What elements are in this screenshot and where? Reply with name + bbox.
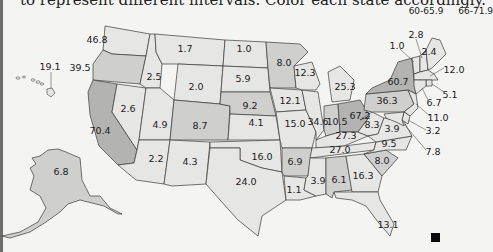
label-ma: 12.0 [443, 64, 464, 75]
label-wv: 8.3 [364, 119, 379, 130]
label-nv: 2.6 [120, 103, 135, 114]
label-al: 6.1 [331, 174, 346, 185]
label-ny: 60.7 [387, 76, 408, 87]
label-wa: 46.8 [86, 34, 107, 45]
leader-de [408, 120, 426, 130]
label-ut: 4.9 [152, 119, 167, 130]
leader-ma [430, 68, 444, 76]
label-pa: 36.3 [376, 95, 397, 106]
label-mo: 15.0 [284, 118, 305, 129]
label-hi: 19.1 [39, 61, 60, 72]
label-md: 7.8 [425, 146, 440, 157]
label-va: 3.9 [384, 123, 399, 134]
label-ct: 6.7 [426, 97, 441, 108]
label-ar: 6.9 [287, 156, 302, 167]
label-sc: 8.0 [374, 155, 389, 166]
label-sd: 5.9 [235, 73, 250, 84]
label-ri: 5.1 [442, 89, 457, 100]
label-ok: 16.0 [251, 151, 272, 162]
label-nd: 1.0 [236, 43, 251, 54]
label-me: 2.4 [421, 46, 436, 57]
label-ky: 27.3 [335, 130, 356, 141]
label-mt: 1.7 [177, 43, 192, 54]
label-ak: 6.8 [53, 166, 68, 177]
state-ri[interactable] [426, 80, 432, 86]
label-ca: 70.4 [89, 125, 110, 136]
label-co: 8.7 [192, 120, 207, 131]
label-ks: 4.1 [248, 117, 263, 128]
label-il: 34.6 [307, 116, 328, 127]
label-or: 39.5 [69, 62, 90, 73]
label-tx: 24.0 [235, 176, 256, 187]
label-az: 2.2 [148, 153, 163, 164]
label-la: 1.1 [286, 184, 301, 195]
label-vt: 1.0 [389, 40, 404, 51]
label-ga: 16.3 [352, 170, 373, 181]
label-ms: 3.9 [310, 175, 325, 186]
label-in: 10.5 [326, 116, 347, 127]
label-wy: 2.0 [188, 81, 203, 92]
label-wi: 12.3 [294, 67, 315, 78]
label-ia: 12.1 [279, 95, 300, 106]
black-square-marker [431, 233, 440, 242]
state-wa[interactable] [103, 26, 150, 56]
label-ne: 9.2 [242, 100, 257, 111]
label-nh: 2.8 [408, 29, 423, 40]
label-nj: 11.0 [427, 112, 448, 123]
state-hi[interactable] [16, 76, 55, 97]
label-fl: 13.1 [377, 219, 398, 230]
label-mn: 8.0 [276, 57, 291, 68]
label-nm: 4.3 [182, 156, 197, 167]
label-id: 2.5 [146, 71, 161, 82]
us-map: 46.8 39.5 70.4 2.6 2.5 1.7 2.0 4.9 8.7 2… [0, 0, 493, 252]
label-mi: 25.3 [334, 81, 355, 92]
label-tn: 27.0 [329, 144, 350, 155]
state-ak[interactable] [2, 149, 122, 238]
label-nc: 9.5 [381, 138, 396, 149]
label-de: 3.2 [425, 125, 440, 136]
